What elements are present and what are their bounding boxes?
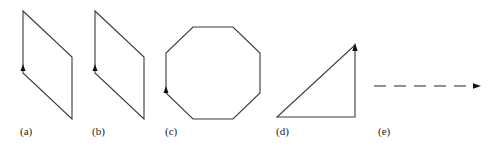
figure-canvas: (a) (b) (c) (d) (e) <box>0 0 496 158</box>
panel-a: (a) <box>20 11 72 138</box>
panel-label-d: (d) <box>276 125 289 138</box>
arrowhead-icon <box>93 64 98 71</box>
arrow-right-icon <box>473 83 481 88</box>
panel-label-b: (b) <box>92 125 105 138</box>
panel-d: (d) <box>276 43 358 138</box>
triangle-d <box>277 45 355 117</box>
arrowhead-icon <box>164 86 169 93</box>
arrowhead-icon <box>21 64 26 71</box>
panel-c: (c) <box>164 27 261 138</box>
panel-label-a: (a) <box>20 125 33 138</box>
panel-label-e: (e) <box>378 125 391 138</box>
panel-e: (e) <box>374 83 481 138</box>
panel-b: (b) <box>92 11 144 138</box>
octagon-c <box>166 27 260 119</box>
parallelogram-b <box>95 11 144 119</box>
parallelogram-a <box>23 11 72 119</box>
panel-label-c: (c) <box>165 125 178 138</box>
